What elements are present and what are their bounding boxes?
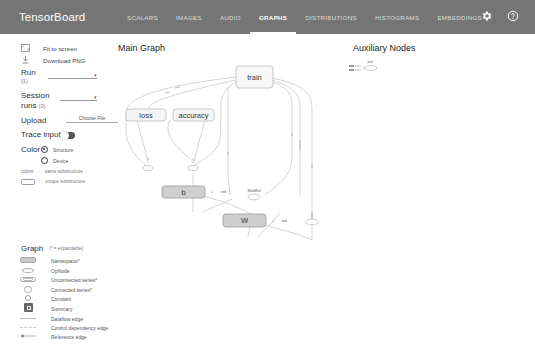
opnode-ellipse[interactable] [143,166,153,171]
node-accuracy[interactable]: accuracy [173,109,214,121]
svg-text:W: W [241,216,249,225]
svg-text:init: init [367,59,373,64]
svg-text:MatMul: MatMul [247,188,260,193]
aux-node-init[interactable]: init [349,59,377,71]
opnode-ellipse[interactable] [188,166,198,171]
svg-text:loss: loss [139,111,153,120]
node-w[interactable]: W [223,214,266,227]
init-label: init [282,218,288,223]
graph-canvas[interactable]: train loss accuracy add b + init MatMul … [0,0,535,352]
svg-text:+: + [211,189,214,194]
node-b[interactable]: b [162,186,205,198]
node-loss[interactable]: loss [126,109,166,121]
node-matmul[interactable]: MatMul [247,188,260,200]
opnode-ellipse[interactable] [306,219,318,225]
svg-text:accuracy: accuracy [178,111,208,120]
svg-text:b: b [181,188,185,197]
svg-text:train: train [247,73,262,82]
init-label: init [221,189,227,194]
node-train[interactable]: train [236,66,273,88]
